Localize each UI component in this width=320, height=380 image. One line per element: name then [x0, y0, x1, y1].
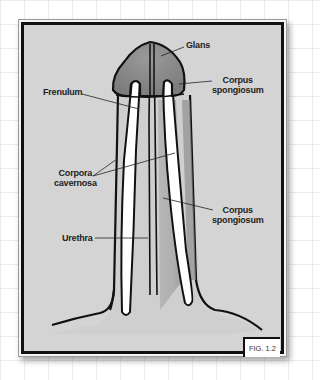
label-corpus-spongiosum-top: Corpus spongiosum	[212, 75, 264, 95]
label-corpora-cavernosa: Corpora cavernosa	[54, 168, 97, 188]
label-glans: Glans	[186, 40, 210, 50]
label-frenulum: Frenulum	[43, 87, 82, 97]
anatomy-illustration	[0, 0, 301, 380]
glans	[113, 42, 185, 97]
label-urethra: Urethra	[62, 233, 93, 243]
label-corpus-spongiosum-mid: Corpus spongiosum	[212, 205, 264, 225]
figure-caption: FIG. 1.2	[243, 337, 280, 357]
